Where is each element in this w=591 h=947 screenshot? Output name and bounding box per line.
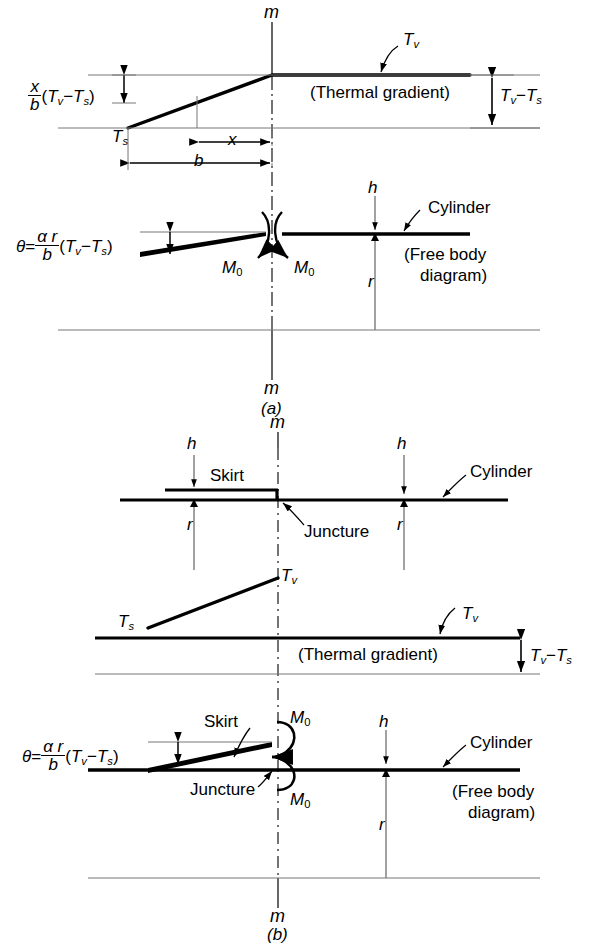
panel-a-left-formula: xb(Tv−Ts) <box>28 78 95 114</box>
panel-b-freebody-skirt-label: Skirt <box>204 712 238 732</box>
panel-a-centerline-label-top: m <box>264 2 279 23</box>
panel-a-h-label: h <box>368 178 377 198</box>
panel-b-freebody-juncture-leader <box>258 771 272 787</box>
panel-b-freebody-h-label: h <box>379 712 388 732</box>
panel-a-m0-right-label: M0 <box>294 258 314 278</box>
panel-b-tv-leader <box>440 608 455 634</box>
panel-a-tv-leader <box>381 46 398 72</box>
panel-a-b-dimension-label: b <box>194 151 203 171</box>
panel-b-ts-label: Ts <box>118 612 134 632</box>
panel-b-freebody-juncture-label: Juncture <box>190 780 255 800</box>
panel-a-m0-left-label: M0 <box>222 258 242 278</box>
panel-a-theta-fraction: α rb <box>35 228 59 264</box>
panel-a-centerline-label-bottom: m <box>264 378 279 399</box>
panel-b-skirt-label: Skirt <box>210 466 244 486</box>
panel-b-figure-label: (b) <box>267 925 288 945</box>
panel-b-r-right-label: r <box>397 515 403 535</box>
panel-b-freebody-caption-1: (Free body <box>452 782 534 802</box>
panel-b-juncture-leader <box>283 503 304 525</box>
panel-b-m0-top-label: M0 <box>290 708 310 728</box>
panel-b-freebody-caption-2: diagram) <box>468 803 535 823</box>
panel-b-r-left-label: r <box>187 515 193 535</box>
panel-b-centerline-label-top: m <box>270 412 285 433</box>
panel-a-x-dimension-label: x <box>228 130 237 150</box>
panel-b-cylinder-label: Cylinder <box>470 462 532 482</box>
panel-b-moment-arrows <box>272 722 294 790</box>
panel-a-r-label: r <box>368 272 374 292</box>
panel-b-freebody-cylinder-label: Cylinder <box>470 733 532 753</box>
panel-b-freebody-r-label: r <box>379 815 385 835</box>
panel-b-freebody-cylinder-leader <box>443 745 466 767</box>
panel-b-h-left-label: h <box>187 434 196 454</box>
panel-a-right-delta-label: Tv−Ts <box>500 86 542 106</box>
panel-b-freebody-h-r-dimension <box>382 730 390 878</box>
panel-a-left-delta-bracket <box>112 75 136 103</box>
figure-canvas: m xb(Tv−Ts) (Thermal gradient) Tv Tv−Ts … <box>0 0 591 947</box>
panel-a-freebody-caption-2: diagram) <box>420 266 487 286</box>
panel-b-left-h-r-dimension <box>190 455 198 570</box>
panel-a-theta-formula: θ=α rb(Tv−Ts) <box>16 228 113 264</box>
panel-b-tv-right-label: Tv <box>462 604 478 624</box>
panel-b-gradient-caption: (Thermal gradient) <box>298 645 438 665</box>
panel-a-ts-label: Ts <box>112 127 128 147</box>
panel-a-freebody-caption-1: (Free body <box>404 245 486 265</box>
panel-b-centerline-label-bottom: m <box>270 906 285 927</box>
panel-b-right-h-r-dimension <box>400 455 408 570</box>
panel-b-right-delta-label: Tv−Ts <box>530 646 572 666</box>
panel-b-h-right-label: h <box>397 434 406 454</box>
panel-a-gradient-caption: (Thermal gradient) <box>310 83 450 103</box>
panel-b-cylinder-leader <box>443 475 466 497</box>
panel-b-m0-bottom-label: M0 <box>290 790 310 810</box>
panel-a-tv-label: Tv <box>403 30 419 50</box>
panel-a-left-formula-fraction: xb <box>28 78 41 114</box>
panel-b-freebody-lines <box>88 742 520 773</box>
panel-b-theta-fraction: α rb <box>41 738 65 774</box>
panel-a-cylinder-leader <box>404 210 420 231</box>
panel-a-h-r-dimension <box>371 196 379 330</box>
panel-b-gradient-curve <box>95 578 520 638</box>
panel-b-juncture-label: Juncture <box>304 522 369 542</box>
panel-b-tv-peak-label: Tv <box>281 566 297 586</box>
panel-b-theta-formula: θ=α rb(Tv−Ts) <box>22 738 119 774</box>
panel-a-cylinder-label: Cylinder <box>428 198 490 218</box>
